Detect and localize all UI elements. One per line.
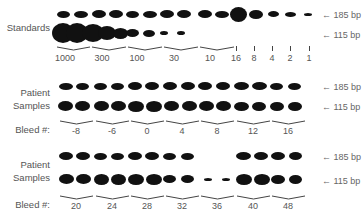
- marker-115bp-standards: ← 115 bp: [322, 30, 360, 40]
- single-lane-tick: [236, 46, 237, 51]
- patient-samples-label-1: Patient Samples: [13, 86, 50, 112]
- gel-band-185bp: [163, 153, 176, 160]
- gel-band-185bp: [254, 152, 268, 160]
- lane-label: 100: [129, 53, 144, 63]
- lane-label: 32: [177, 201, 187, 211]
- gel-band-115bp: [163, 175, 176, 183]
- lane-label: 36: [212, 201, 222, 211]
- gel-band-115bp: [199, 101, 214, 111]
- gel-band-115bp: [236, 174, 252, 185]
- gel-band-185bp: [145, 82, 159, 90]
- gel-band-115bp: [288, 102, 302, 111]
- gel-band-185bp: [109, 10, 123, 18]
- gel-band-115bp: [75, 101, 90, 111]
- bleed-label-2: Bleed #:: [15, 199, 50, 210]
- gel-band-115bp: [126, 29, 139, 37]
- lane-group-brace: [128, 46, 162, 52]
- marker-115bp-patient-1: ← 115 bp: [322, 102, 360, 112]
- gel-band-185bp: [92, 10, 106, 18]
- lane-label: -6: [108, 126, 116, 136]
- gel-band-185bp: [285, 12, 296, 17]
- lane-label: 300: [94, 53, 109, 63]
- gel-band-115bp: [216, 101, 231, 111]
- gel-band-185bp: [216, 82, 230, 90]
- gel-band-185bp: [181, 153, 194, 160]
- gel-band-185bp: [252, 82, 267, 90]
- gel-band-185bp: [111, 153, 124, 160]
- gel-band-115bp: [181, 175, 194, 183]
- gel-band-185bp: [145, 152, 159, 160]
- single-lane-tick: [272, 46, 273, 51]
- gel-band-185bp: [76, 152, 90, 160]
- gel-band-115bp: [254, 174, 270, 185]
- gel-band-115bp: [128, 174, 144, 185]
- gel-band-185bp: [215, 11, 229, 18]
- gel-band-115bp: [58, 101, 73, 111]
- lane-label: 28: [142, 201, 152, 211]
- gel-band-185bp: [163, 82, 177, 90]
- gel-band-185bp: [57, 11, 70, 18]
- gel-band-115bp: [160, 31, 168, 35]
- lane-group-brace: [200, 46, 234, 52]
- single-lane-tick: [290, 46, 291, 51]
- gel-band-185bp: [128, 82, 142, 90]
- gel-band-185bp: [289, 152, 302, 160]
- gel-band-185bp: [230, 7, 247, 22]
- lane-group-brace: [57, 46, 90, 52]
- lane-label: 2: [287, 53, 292, 63]
- lane-label: 30: [169, 53, 179, 63]
- lane-label: 40: [248, 201, 258, 211]
- gel-band-185bp: [76, 83, 89, 90]
- gel-band-115bp: [164, 101, 179, 111]
- gel-band-185bp: [160, 10, 174, 18]
- gel-band-115bp: [271, 175, 285, 184]
- gel-band-115bp: [94, 174, 109, 185]
- lane-group-brace: [164, 46, 198, 52]
- patient-samples-label-2: Patient Samples: [13, 158, 50, 184]
- lane-label: 8: [214, 126, 219, 136]
- gel-band-115bp: [222, 178, 230, 181]
- gel-band-115bp: [111, 174, 126, 185]
- gel-band-115bp: [177, 31, 185, 35]
- gel-band-115bp: [234, 102, 249, 111]
- gel-band-185bp: [59, 83, 73, 90]
- gel-band-115bp: [146, 101, 162, 112]
- gel-band-115bp: [252, 102, 266, 111]
- gel-band-185bp: [128, 152, 142, 160]
- marker-115bp-patient-2: ← 115 bp: [322, 176, 360, 186]
- gel-band-185bp: [59, 152, 73, 160]
- gel-band-115bp: [94, 101, 109, 111]
- marker-185bp-patient-2: ← 185 bp: [322, 152, 361, 162]
- gel-band-115bp: [289, 175, 302, 184]
- lane-group-brace: [92, 46, 126, 52]
- gel-band-185bp: [288, 83, 301, 90]
- gel-band-115bp: [76, 174, 91, 184]
- gel-band-185bp: [249, 10, 263, 19]
- gel-band-185bp: [304, 13, 312, 16]
- gel-band-185bp: [268, 11, 279, 17]
- gel-band-185bp: [181, 82, 195, 90]
- lane-label: 10: [205, 53, 215, 63]
- gel-band-185bp: [177, 10, 191, 18]
- gel-band-185bp: [111, 83, 124, 90]
- gel-band-185bp: [234, 82, 249, 90]
- gel-band-115bp: [59, 174, 74, 184]
- gel-band-185bp: [143, 11, 157, 18]
- lane-label: 12: [248, 126, 258, 136]
- gel-band-115bp: [143, 30, 155, 37]
- lane-label: 4: [179, 126, 184, 136]
- gel-band-115bp: [128, 101, 144, 112]
- gel-band-185bp: [271, 152, 285, 160]
- single-lane-tick: [309, 46, 310, 51]
- gel-band-185bp: [270, 83, 283, 90]
- marker-185bp-patient-1: ← 185 bp: [322, 82, 361, 92]
- lane-label: 16: [231, 53, 241, 63]
- lane-label: 48: [283, 201, 293, 211]
- lane-label: 1000: [55, 53, 75, 63]
- lane-label: 8: [251, 53, 256, 63]
- lane-label: 0: [144, 126, 149, 136]
- gel-band-185bp: [198, 82, 212, 90]
- lane-label: 24: [107, 201, 117, 211]
- bleed-label-1: Bleed #:: [15, 124, 50, 135]
- lane-label: 16: [283, 126, 293, 136]
